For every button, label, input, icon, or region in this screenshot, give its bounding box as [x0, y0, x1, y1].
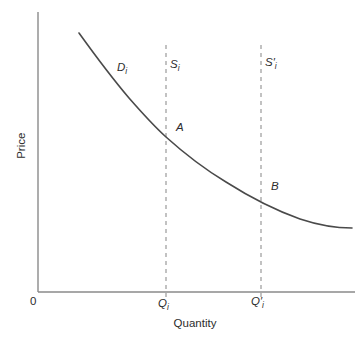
point-label-b: B: [271, 181, 279, 193]
tick-q-subscript: i: [167, 302, 169, 312]
supply-demand-chart: Price Quantity 0 Di Si S′i A B Qi Q′i: [0, 0, 364, 345]
supply-label-subscript: i: [178, 63, 180, 73]
demand-label-subscript: i: [125, 66, 127, 76]
tick-q-base: Q: [158, 297, 167, 309]
x-tick-label-qi: Qi: [158, 298, 169, 312]
supply-prime-label-base: S: [265, 56, 273, 68]
supply-label-si: Si: [170, 59, 180, 73]
chart-canvas: [0, 0, 364, 345]
x-tick-label-qi-prime: Q′i: [251, 296, 264, 310]
tick-q-prime-subscript: i: [262, 300, 264, 310]
tick-q-prime-base: Q: [251, 295, 260, 307]
supply-label-base: S: [170, 58, 178, 70]
demand-curve-label: Di: [117, 62, 127, 76]
x-axis-title: Quantity: [145, 318, 245, 330]
origin-label: 0: [30, 296, 36, 308]
point-label-a: A: [176, 122, 184, 134]
supply-label-si-prime: S′i: [265, 57, 277, 71]
supply-prime-label-subscript: i: [275, 61, 277, 71]
y-axis-title: Price: [16, 116, 28, 176]
